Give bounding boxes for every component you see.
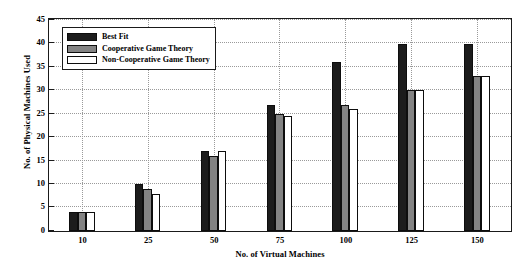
y-axis-tick-label: 35 bbox=[23, 60, 45, 72]
x-axis-tick-label: 50 bbox=[194, 235, 234, 245]
bar bbox=[209, 156, 218, 231]
y-axis-tick bbox=[49, 42, 54, 43]
legend-item: Cooperative Game Theory bbox=[67, 43, 210, 54]
x-axis-tick-label: 150 bbox=[457, 235, 497, 245]
legend-label: Cooperative Game Theory bbox=[102, 44, 193, 54]
y-axis-tick bbox=[49, 230, 54, 231]
bar bbox=[332, 62, 341, 231]
legend-swatch-best-fit bbox=[67, 33, 97, 41]
x-axis-tick-label: 10 bbox=[63, 235, 103, 245]
y-axis-tick bbox=[49, 19, 54, 20]
bar bbox=[135, 184, 144, 231]
bar bbox=[407, 90, 416, 231]
y-axis-tick bbox=[49, 183, 54, 184]
chart-legend: Best Fit Cooperative Game Theory Non-Coo… bbox=[62, 27, 216, 70]
y-axis-tick-label: 15 bbox=[23, 154, 45, 166]
y-axis-tick-label: 5 bbox=[23, 200, 45, 212]
bar bbox=[275, 114, 284, 231]
legend-label: Best Fit bbox=[102, 32, 128, 42]
bar bbox=[415, 90, 424, 231]
y-axis-tick bbox=[49, 160, 54, 161]
y-axis-tick-label: 10 bbox=[23, 177, 45, 189]
bar bbox=[481, 76, 490, 231]
y-axis-tick-label: 0 bbox=[23, 224, 45, 236]
y-axis-tick bbox=[49, 206, 54, 207]
y-axis-tick bbox=[49, 113, 54, 114]
bar bbox=[143, 189, 152, 231]
legend-swatch-non-cooperative-game-theory bbox=[67, 56, 97, 64]
bar bbox=[218, 151, 227, 231]
y-axis-tick-label: 25 bbox=[23, 107, 45, 119]
bar bbox=[398, 44, 407, 231]
bar bbox=[86, 212, 95, 231]
bar bbox=[69, 212, 78, 231]
y-axis-tick bbox=[49, 136, 54, 137]
y-axis-tick bbox=[49, 89, 54, 90]
bar bbox=[464, 44, 473, 231]
y-axis-tick-label: 20 bbox=[23, 130, 45, 142]
y-axis-tick-label: 30 bbox=[23, 83, 45, 95]
x-axis-tick-label: 75 bbox=[260, 235, 300, 245]
y-axis-tick bbox=[49, 66, 54, 67]
bar bbox=[341, 105, 350, 231]
x-axis-tick-label: 100 bbox=[326, 235, 366, 245]
legend-item: Non-Cooperative Game Theory bbox=[67, 55, 210, 66]
bar bbox=[349, 109, 358, 231]
legend-label: Non-Cooperative Game Theory bbox=[102, 55, 210, 65]
bar bbox=[473, 76, 482, 231]
bar bbox=[152, 194, 161, 231]
bar bbox=[284, 116, 293, 231]
x-axis-tick-label: 125 bbox=[392, 235, 432, 245]
y-axis-tick-label: 40 bbox=[23, 36, 45, 48]
legend-swatch-cooperative-game-theory bbox=[67, 45, 97, 53]
bar bbox=[201, 151, 210, 231]
legend-item: Best Fit bbox=[67, 32, 210, 43]
bar bbox=[267, 105, 276, 231]
x-axis-tick-label: 25 bbox=[128, 235, 168, 245]
bar bbox=[78, 212, 87, 231]
y-axis-tick-label: 45 bbox=[23, 13, 45, 25]
bar-chart-figure: No. of Physical Machines Used 0510152025… bbox=[0, 0, 530, 270]
x-axis-label: No. of Virtual Machines bbox=[48, 249, 512, 259]
